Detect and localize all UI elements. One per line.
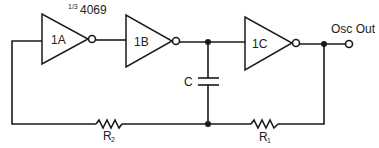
part-label-fraction: 1/3 bbox=[68, 3, 78, 10]
resistor-r1-icon bbox=[251, 120, 278, 128]
resistor-r2-subscript: 2 bbox=[111, 136, 115, 143]
output-terminal-icon bbox=[346, 41, 353, 48]
part-label-number: 4069 bbox=[80, 3, 107, 17]
capacitor-label: C bbox=[184, 75, 193, 89]
junction-dot-bottom bbox=[205, 121, 211, 127]
resistor-r2-icon bbox=[96, 120, 122, 128]
inverter-1a-bubble-icon bbox=[89, 36, 96, 43]
oscillator-schematic: 1/3 4069 1A 1B 1C C R 2 R 1 Osc Out bbox=[0, 0, 379, 148]
gate-1b-label: 1B bbox=[134, 35, 149, 49]
gate-1c-label: 1C bbox=[252, 37, 268, 51]
inverter-1c-bubble-icon bbox=[293, 40, 300, 47]
osc-out-label: Osc Out bbox=[331, 22, 376, 36]
junction-dot-output bbox=[321, 41, 327, 47]
junction-dot-top bbox=[205, 39, 211, 45]
resistor-r1-subscript: 1 bbox=[267, 137, 271, 144]
inverter-1b-bubble-icon bbox=[173, 38, 180, 45]
wire-r1-to-output bbox=[278, 44, 324, 124]
gate-1a-label: 1A bbox=[51, 33, 66, 47]
inverter-1b-icon bbox=[126, 15, 172, 67]
